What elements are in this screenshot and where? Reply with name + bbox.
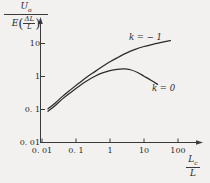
curve-k-zero [48,69,158,111]
x-axis-arrow-icon [196,140,203,145]
x-tick-label-1: 1 [99,146,121,155]
y-tick-label-1: 1 [20,72,40,81]
y-tick-label-0-1: 0. 1 [12,105,40,114]
chart-figure: Uo E(ΔLL) Lc L 10 1 0. 1 0. 01 0. 01 0. … [0,0,210,183]
curve-annotation-k-negative-1: k = − 1 [129,33,162,42]
x-axis-label-numerator: Lc [180,155,206,166]
x-tick-marks [42,139,178,143]
y-axis-numerator-symbol: U [20,1,28,11]
y-axis-inner-fraction: ΔLL [23,16,35,32]
y-axis-label-numerator: Uo [3,2,49,14]
x-tick-label-100: 100 [165,146,191,155]
y-tick-marks [41,44,46,143]
x-tick-label-0-1: 0. 1 [61,146,91,155]
y-axis-numerator-subscript: o [28,6,32,13]
inner-fraction-numerator: ΔL [23,16,35,23]
x-axis-numerator-subscript: c [194,159,197,166]
x-axis-label: Lc L [180,155,206,178]
y-axis-label-denominator: E(ΔLL) [3,15,49,32]
x-tick-label-10: 10 [132,146,156,155]
x-tick-label-0-01: 0. 01 [25,146,59,155]
curve-k-negative-1 [48,41,170,109]
x-axis-label-denominator: L [180,169,206,178]
y-tick-label-10: 10 [20,39,40,48]
y-axis-label: Uo E(ΔLL) [3,2,49,31]
paren-close: ) [35,16,40,31]
inner-fraction-denominator: L [23,24,35,31]
curve-annotation-k-zero: k = 0 [152,84,175,93]
